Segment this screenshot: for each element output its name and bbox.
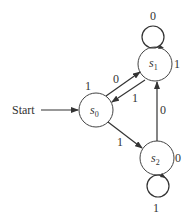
- fsm-diagram: Start s0 s1 s2 1 0 1 0 1 1 0 0 1: [0, 0, 192, 217]
- edge-s2-s1-label: 0: [160, 103, 166, 117]
- s0-output-label: 1: [85, 79, 91, 93]
- state-s2: s2: [140, 141, 174, 175]
- start-label: Start: [12, 103, 35, 117]
- state-s0: s0: [79, 93, 113, 127]
- loop-s1: [142, 26, 164, 48]
- edge-s0-s2: [108, 122, 142, 148]
- s1-output-label: 1: [174, 57, 180, 71]
- loop-s1-label: 0: [150, 9, 156, 23]
- edge-s0-s2-label: 1: [117, 135, 123, 149]
- diagram-svg: Start s0 s1 s2 1 0 1 0 1 1 0 0 1: [0, 0, 192, 217]
- edge-s0-s1-label: 0: [113, 72, 119, 86]
- loop-s2: [147, 175, 169, 197]
- state-s1: s1: [138, 47, 172, 81]
- loop-s2-label: 1: [153, 201, 159, 215]
- edge-s1-s0-label: 1: [132, 91, 138, 105]
- s2-output-label: 0: [175, 151, 181, 165]
